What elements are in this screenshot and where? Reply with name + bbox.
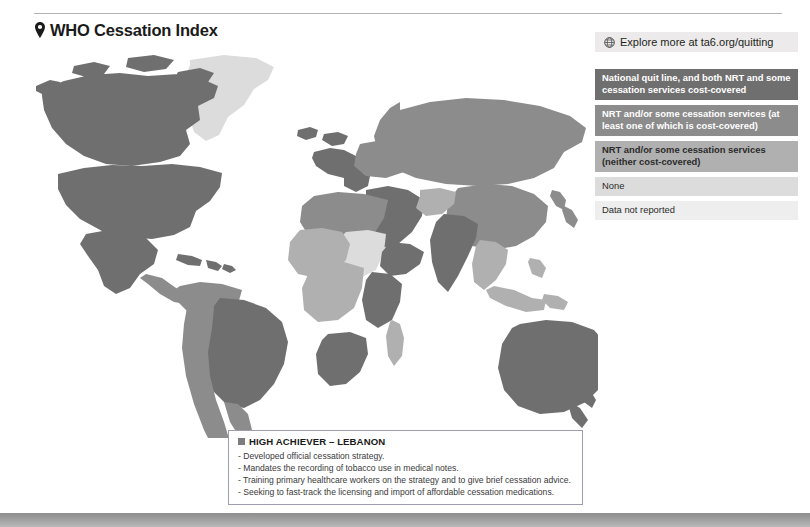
legend-item-label: NRT and/or some cessation services (at l… <box>602 108 791 132</box>
page-title: WHO Cessation Index <box>50 22 218 39</box>
region-southeast-asia[interactable] <box>472 240 508 290</box>
region-canada[interactable] <box>36 55 218 166</box>
high-achiever-callout: HIGH ACHIEVER – LEBANON - Developed offi… <box>228 430 583 505</box>
callout-line: - Mandates the recording of tobacco use … <box>238 462 573 474</box>
region-east-asia-islands[interactable] <box>550 190 578 228</box>
location-pin-icon <box>34 22 46 38</box>
region-madagascar[interactable] <box>386 320 404 366</box>
legend-item-4[interactable]: Data not reported <box>595 201 798 220</box>
legend-item-1[interactable]: NRT and/or some cessation services (at l… <box>595 105 798 136</box>
map-regions <box>36 55 598 438</box>
region-united-states[interactable] <box>58 164 222 239</box>
region-brazil[interactable] <box>202 298 288 408</box>
explore-more-link[interactable]: Explore more at ta6.org/quitting <box>595 32 798 52</box>
world-choropleth-map[interactable] <box>28 48 598 438</box>
legend-item-0[interactable]: National quit line, and both NRT and som… <box>595 69 798 100</box>
page-root: WHO Cessation Index Explore more at ta6.… <box>0 0 810 527</box>
callout-line: - Training primary healthcare workers on… <box>238 474 573 486</box>
region-mexico[interactable] <box>80 230 158 294</box>
region-east-africa[interactable] <box>362 272 402 328</box>
square-bullet-icon <box>238 438 245 445</box>
legend-item-2[interactable]: NRT and/or some cessation services (neit… <box>595 141 798 172</box>
legend-item-label: National quit line, and both NRT and som… <box>602 72 791 96</box>
callout-line: - Seeking to fast-track the licensing an… <box>238 486 573 498</box>
region-southern-africa[interactable] <box>316 332 368 386</box>
legend-item-label: NRT and/or some cessation services (neit… <box>602 144 791 168</box>
map-legend: National quit line, and both NRT and som… <box>595 69 798 225</box>
region-caribbean[interactable] <box>176 254 236 273</box>
region-iceland[interactable] <box>297 127 318 140</box>
region-russia[interactable] <box>374 98 586 186</box>
region-horn-of-africa[interactable] <box>380 242 424 276</box>
globe-icon <box>604 37 615 48</box>
legend-item-label: Data not reported <box>602 204 791 216</box>
header-divider <box>34 13 782 14</box>
legend-item-label: None <box>602 180 791 192</box>
legend-item-3[interactable]: None <box>595 177 798 196</box>
callout-title: HIGH ACHIEVER – LEBANON <box>249 437 385 447</box>
page-header: WHO Cessation Index <box>34 22 218 39</box>
page-footer-bar <box>0 513 810 527</box>
region-india[interactable] <box>430 214 478 292</box>
callout-header: HIGH ACHIEVER – LEBANON <box>238 437 573 447</box>
explore-more-label: Explore more at ta6.org/quitting <box>620 37 773 48</box>
region-central-africa[interactable] <box>302 262 364 322</box>
callout-line: - Developed official cessation strategy. <box>238 450 573 462</box>
